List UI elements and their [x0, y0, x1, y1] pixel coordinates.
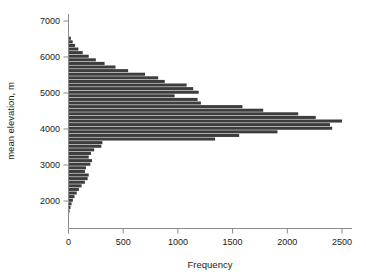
- histogram-bar: [69, 76, 159, 79]
- histogram-bar: [69, 184, 82, 187]
- y-axis-tick-label: 3000: [40, 160, 60, 170]
- histogram-bar: [69, 73, 146, 76]
- histogram-bar: [69, 102, 201, 105]
- histogram-bar: [69, 177, 88, 180]
- y-axis-title: mean elevation, m: [5, 82, 16, 160]
- histogram-bar: [69, 105, 243, 108]
- histogram-bar: [69, 69, 129, 72]
- histogram-bar: [69, 174, 89, 177]
- x-axis-tick-label: 1000: [168, 237, 188, 247]
- y-axis-tick-label: 7000: [40, 16, 60, 26]
- histogram-bar: [69, 163, 91, 166]
- x-axis-title: Frequency: [188, 259, 233, 270]
- histogram-bar: [69, 40, 73, 43]
- histogram-bar: [69, 80, 165, 83]
- histogram-bar: [69, 123, 330, 126]
- y-axis-tick-label: 6000: [40, 52, 60, 62]
- x-axis-tick-label: 2500: [332, 237, 352, 247]
- histogram-bar: [69, 134, 240, 137]
- histogram-bar: [69, 145, 102, 148]
- histogram-bar: [69, 58, 96, 61]
- histogram-bar: [69, 87, 194, 90]
- histogram-bar: [69, 188, 79, 191]
- y-axis-tick-label: 5000: [40, 88, 60, 98]
- chart-canvas: 200030004000500060007000 050010001500200…: [0, 0, 366, 276]
- histogram-bar: [69, 66, 116, 69]
- histogram-bar: [69, 109, 264, 112]
- histogram-bar: [69, 130, 278, 133]
- histogram-bar: [69, 116, 316, 119]
- x-axis-tick-label: 500: [116, 237, 131, 247]
- x-axis-tick-label: 2000: [277, 237, 297, 247]
- histogram-bar: [69, 138, 216, 141]
- histogram-bar: [69, 112, 299, 115]
- y-axis-tick-label: 2000: [40, 196, 60, 206]
- histogram-bar: [69, 192, 77, 195]
- x-axis-tick-label: 0: [66, 237, 71, 247]
- histogram-bar: [69, 55, 89, 58]
- histogram-bar: [69, 195, 75, 198]
- histogram-bar: [69, 62, 105, 65]
- histogram-bar: [69, 127, 333, 130]
- histogram-bar: [69, 51, 83, 54]
- histogram-bar: [69, 91, 199, 94]
- histogram-bar: [69, 152, 91, 155]
- histogram-bar: [69, 84, 187, 87]
- histogram-bar: [69, 166, 87, 169]
- histogram-bar: [69, 94, 175, 97]
- histogram-bar: [69, 181, 85, 184]
- y-axis-tick-label: 4000: [40, 124, 60, 134]
- x-axis-tick-label: 1500: [223, 237, 243, 247]
- histogram-bar: [69, 141, 103, 144]
- histogram-bar: [69, 159, 93, 162]
- histogram-bar: [69, 98, 198, 101]
- histogram-bar: [69, 120, 343, 123]
- histogram-bar: [69, 44, 76, 47]
- histogram-figure: 200030004000500060007000 050010001500200…: [0, 0, 366, 276]
- histogram-bar: [69, 156, 89, 159]
- histogram-bar: [69, 148, 95, 151]
- histogram-bar: [69, 199, 73, 202]
- histogram-bar: [69, 48, 79, 51]
- histogram-bar: [69, 170, 85, 173]
